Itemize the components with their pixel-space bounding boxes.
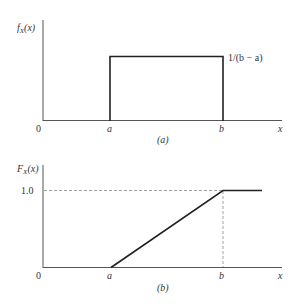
y-tick-one: 1.0 (21, 185, 34, 196)
tick-a-b: a (107, 270, 112, 281)
caption-a: (a) (157, 134, 169, 146)
pdf-height-annotation: 1/(b − a) (228, 52, 263, 64)
figure: fX(x) 1/(b − a) 0 a b x (a) FX(x) 1.0 0 … (0, 0, 305, 307)
tick-b-a: b (219, 123, 224, 134)
ylabel-b: FX(x) (16, 163, 39, 176)
ylabel-a: fX(x) (17, 22, 36, 35)
pdf-curve (110, 57, 223, 122)
caption-b: (b) (157, 282, 169, 294)
tick-b-b: b (219, 270, 224, 281)
tick-a-a: a (107, 123, 112, 134)
origin-label-b: 0 (36, 270, 41, 281)
origin-label-a: 0 (36, 123, 41, 134)
panel-b-cdf: FX(x) 1.0 0 a b x (b) (16, 163, 283, 294)
x-label-b: x (277, 270, 283, 281)
x-label-a: x (277, 123, 283, 134)
cdf-curve (111, 191, 262, 268)
panel-a-pdf: fX(x) 1/(b − a) 0 a b x (a) (17, 20, 283, 146)
